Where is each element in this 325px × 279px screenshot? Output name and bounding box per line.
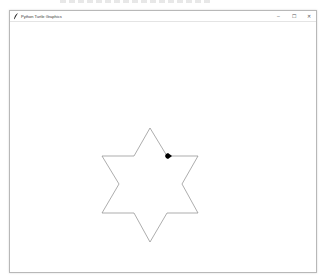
minimize-button[interactable]: – bbox=[271, 11, 286, 21]
window-title: Python Turtle Graphics bbox=[21, 14, 62, 19]
minimize-icon: – bbox=[277, 13, 280, 19]
maximize-icon: ☐ bbox=[292, 13, 296, 19]
feather-icon bbox=[13, 13, 19, 20]
maximize-button[interactable]: ☐ bbox=[286, 11, 301, 21]
title-bar[interactable]: Python Turtle Graphics – ☐ ✕ bbox=[10, 11, 316, 21]
drawing-surface bbox=[10, 22, 316, 273]
close-button[interactable]: ✕ bbox=[301, 11, 316, 21]
turtle-window: Python Turtle Graphics – ☐ ✕ bbox=[9, 10, 317, 273]
window-controls: – ☐ ✕ bbox=[271, 11, 316, 21]
truncated-top-text bbox=[60, 0, 210, 3]
turtle-canvas[interactable] bbox=[10, 21, 316, 272]
close-icon: ✕ bbox=[307, 13, 311, 19]
star-shape bbox=[102, 128, 198, 242]
